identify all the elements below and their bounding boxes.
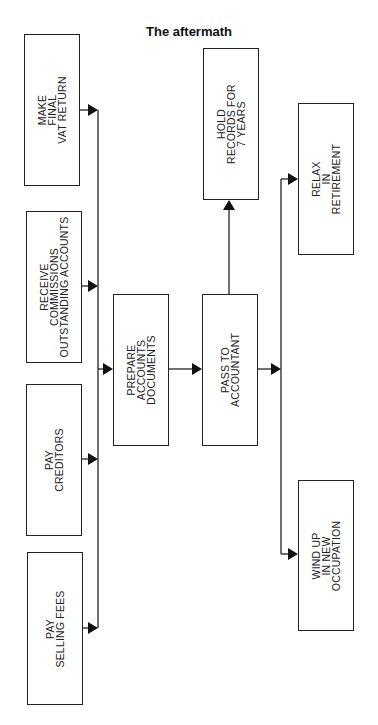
arrowhead-icon [223,200,235,210]
arrowhead-icon [192,363,202,375]
node-relax-in-retirement: RELAX IN RETIREMENT [298,103,354,255]
arrowhead-icon [271,363,281,375]
arrowhead-icon [288,548,298,560]
node-label: PREPARE ACCOUNTS DOCUMENTS [126,335,156,404]
node-prepare-accounts: PREPARE ACCOUNTS DOCUMENTS [113,294,169,446]
node-wind-up: WIND UP IN NEW OCCUPATION [298,480,354,631]
node-pass-to-accountant: PASS TO ACCOUNTANT [202,294,258,446]
node-hold-records: HOLD RECORDS FOR 7 YEARS [203,48,259,200]
node-label: WIND UP IN NEW OCCUPATION [311,520,341,590]
arrowhead-icon [288,173,298,185]
arrowhead-icon [88,622,98,634]
node-label: RECEIVE COMMISSIONS OUTSTANDING ACCOUNTS [39,217,69,358]
node-receive-commissions: RECEIVE COMMISSIONS OUTSTANDING ACCOUNTS [26,211,82,363]
arrowhead-icon [103,363,113,375]
node-pay-selling-fees: PAY SELLING FEES [27,552,83,705]
arrowhead-icon [88,280,98,292]
node-label: PAY CREDITORS [44,428,64,491]
node-pay-creditors: PAY CREDITORS [26,384,82,536]
node-label: HOLD RECORDS FOR 7 YEARS [216,84,246,164]
arrowhead-icon [88,104,98,116]
node-make-final-vat-return: MAKE FINAL VAT RETURN [24,34,80,186]
node-label: RELAX IN RETIREMENT [311,144,341,214]
arrowhead-icon [88,453,98,465]
node-label: PAY SELLING FEES [45,590,65,667]
node-label: PASS TO ACCOUNTANT [220,333,240,407]
node-label: MAKE FINAL VAT RETURN [37,76,67,143]
